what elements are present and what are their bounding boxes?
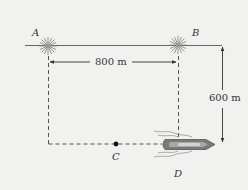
label-b: B bbox=[192, 28, 199, 38]
label-d: D bbox=[174, 169, 182, 179]
label-a: A bbox=[32, 28, 39, 38]
diagram-canvas: A B C D 800 m 600 m bbox=[0, 0, 248, 190]
label-c: C bbox=[112, 152, 120, 162]
point-c-dot bbox=[114, 142, 119, 147]
beacon-a-icon bbox=[39, 37, 57, 55]
boat-icon bbox=[163, 140, 215, 150]
dimension-label-800: 800 m bbox=[93, 57, 129, 67]
dashed-path bbox=[49, 56, 179, 144]
beacon-b-icon bbox=[169, 36, 187, 54]
dimension-label-600: 600 m bbox=[207, 93, 243, 103]
